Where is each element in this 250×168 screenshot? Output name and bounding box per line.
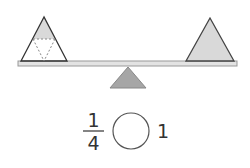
answer-circle[interactable] <box>113 113 149 149</box>
shaded-quarter <box>33 17 55 39</box>
fulcrum-triangle <box>110 67 146 88</box>
left-triangle-divided <box>21 17 67 61</box>
compare-value-right: 1 <box>155 122 171 141</box>
fraction-numerator: 1 <box>83 111 104 130</box>
balance-plank <box>18 61 237 66</box>
balance-scale-diagram <box>0 0 250 168</box>
fraction-denominator: 4 <box>83 134 104 153</box>
right-triangle <box>186 18 234 61</box>
